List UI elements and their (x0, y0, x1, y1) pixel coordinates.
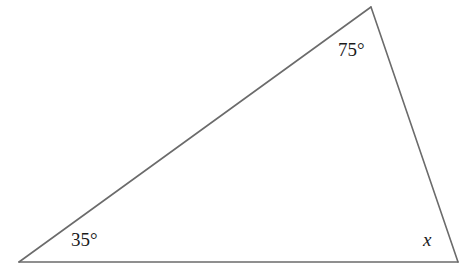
edge-right (371, 7, 458, 262)
angle-label-top: 75° (338, 39, 365, 60)
angle-label-bottom-left: 35° (71, 229, 98, 250)
edge-left (19, 7, 371, 262)
triangle-diagram: 75° 35° x (0, 0, 466, 279)
angle-label-bottom-right: x (422, 229, 432, 250)
